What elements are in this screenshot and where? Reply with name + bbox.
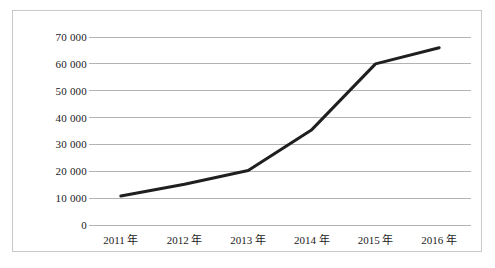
x-tick-label: 2016 年 [421, 231, 457, 247]
chart-figure: 010 00020 00030 00040 00050 00060 00070 … [12, 10, 482, 252]
x-tick-label: 2011 年 [103, 231, 138, 247]
x-tick-label: 2013 年 [230, 231, 266, 247]
x-tick-label: 2012 年 [167, 231, 203, 247]
x-tick-label: 2014 年 [294, 231, 330, 247]
x-axis-tick-labels: 2011 年2012 年2013 年2014 年2015 年2016 年 [13, 11, 483, 253]
x-tick-label: 2015 年 [358, 231, 394, 247]
plot-region: 010 00020 00030 00040 00050 00060 00070 … [13, 11, 483, 253]
